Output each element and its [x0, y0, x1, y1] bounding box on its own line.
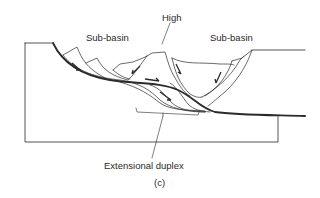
- duplex-leader-line: [152, 116, 163, 158]
- tilted-block-2: [86, 58, 128, 80]
- right-basin-floor: [172, 58, 234, 65]
- slip-arrow-6: [215, 72, 221, 83]
- high-leader-line: [162, 23, 170, 44]
- right-tilted-block: [208, 50, 252, 106]
- slip-arrow-2: [132, 66, 140, 74]
- label-panel: (c): [154, 178, 165, 188]
- label-sub-basin-left: Sub-basin: [86, 33, 129, 43]
- slip-arrow-3: [145, 78, 159, 81]
- slip-arrow-5: [176, 64, 181, 74]
- high-block: [147, 52, 190, 96]
- label-extensional-duplex: Extensional duplex: [104, 161, 184, 171]
- tilted-block-1-fault: [63, 55, 205, 112]
- slip-arrow-4: [160, 92, 171, 100]
- duplex-brace: [136, 108, 199, 116]
- label-sub-basin-right: Sub-basin: [210, 33, 253, 43]
- right-basin-fault: [202, 56, 244, 97]
- label-high: High: [162, 13, 182, 23]
- tilted-block-3b: [113, 70, 130, 79]
